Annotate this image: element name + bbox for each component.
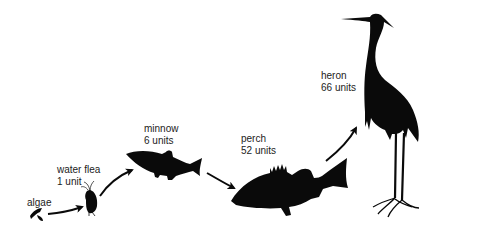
arrow-water-flea-to-minnow xyxy=(100,170,132,196)
algae-icon xyxy=(30,208,43,221)
food-chain-diagram xyxy=(0,0,483,236)
heron-icon xyxy=(341,14,419,217)
arrow-algae-to-water-flea xyxy=(48,207,82,214)
arrow-minnow-to-perch xyxy=(207,173,234,188)
water-flea-icon xyxy=(81,181,97,216)
arrow-perch-to-heron xyxy=(326,128,356,161)
perch-icon xyxy=(231,158,348,216)
minnow-icon xyxy=(126,151,202,181)
